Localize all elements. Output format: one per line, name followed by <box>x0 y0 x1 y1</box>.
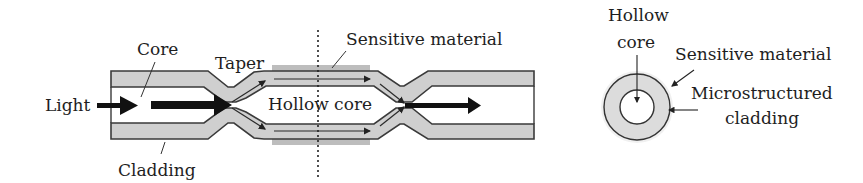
taper-label: Taper <box>215 53 265 73</box>
light-input-arrow <box>97 96 138 115</box>
cross-section-sensitive-label: Sensitive material <box>675 44 831 64</box>
cladding-label: Cladding <box>118 160 196 180</box>
fiber-sensor-diagram: Light Core Taper Sensitive material Holl… <box>0 0 863 183</box>
microstructured-label-line1: Microstructured <box>691 83 833 103</box>
hollow-core-label: Hollow core <box>268 94 372 114</box>
hollow-label-line2: core <box>617 32 655 52</box>
sensitive-material-label: Sensitive material <box>346 29 502 49</box>
hollow-label-line1: Hollow <box>608 5 669 25</box>
core-label: Core <box>137 39 178 59</box>
microstructured-label-line2: cladding <box>725 108 799 128</box>
light-label: Light <box>45 95 91 115</box>
